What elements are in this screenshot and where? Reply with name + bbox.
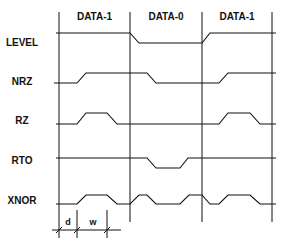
waveform-level xyxy=(56,33,276,43)
column-header-1: DATA-1 xyxy=(77,11,113,22)
waveform-xnor xyxy=(56,195,276,204)
waveform-rz xyxy=(56,113,276,124)
marker-label-d: d xyxy=(65,217,71,227)
marker-label-w: w xyxy=(88,217,97,227)
timing-diagram: DATA-1 DATA-0 DATA-1 LEVEL NRZ RZ RTO XN… xyxy=(0,0,286,248)
signal-label-rz: RZ xyxy=(15,115,28,126)
column-header-3: DATA-1 xyxy=(219,11,255,22)
column-header-2: DATA-0 xyxy=(148,11,184,22)
waveform-nrz xyxy=(54,73,276,83)
signal-label-level: LEVEL xyxy=(6,37,38,48)
signal-label-rto: RTO xyxy=(12,155,33,166)
waveform-rto xyxy=(56,158,276,168)
signal-label-nrz: NRZ xyxy=(12,76,33,87)
signal-label-xnor: XNOR xyxy=(8,195,38,206)
